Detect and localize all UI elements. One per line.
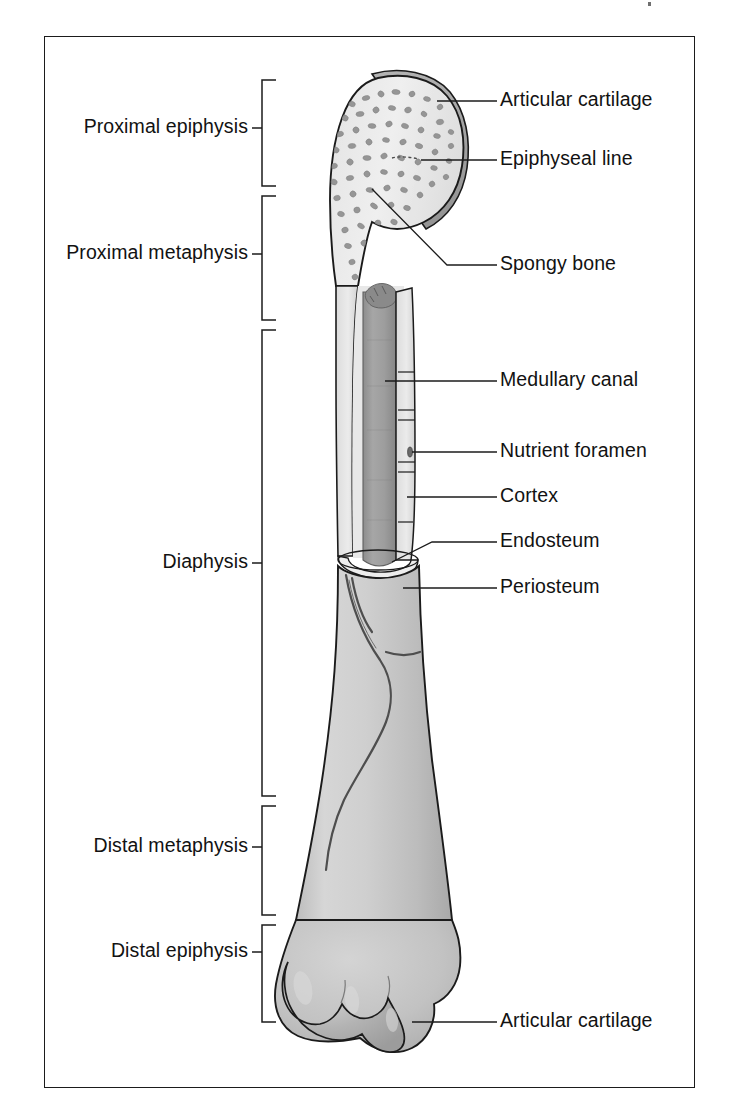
leader-label-spongy-bone: Spongy bone (500, 252, 616, 275)
bracket-label-diaphysis: Diaphysis (163, 550, 248, 573)
bracket-proximal-metaphysis (262, 196, 276, 320)
bracket-label-distal-metaphysis: Distal metaphysis (93, 834, 248, 857)
leader-label-articular-cartilage-proximal: Articular cartilage (500, 88, 653, 111)
bracket-label-proximal-epiphysis: Proximal epiphysis (84, 115, 248, 138)
bracket-group (252, 80, 276, 1022)
figure-page: Proximal epiphysisProximal metaphysisDia… (0, 0, 734, 1114)
leader-label-medullary-canal: Medullary canal (500, 368, 638, 391)
leader-label-nutrient-foramen: Nutrient foramen (500, 439, 647, 462)
bracket-distal-epiphysis (262, 925, 276, 1022)
cortex-right-wall (396, 288, 415, 560)
marrow-transition (365, 283, 396, 308)
medullary-canal (363, 292, 396, 566)
proximal-epiphysis-body (330, 76, 463, 286)
bracket-diaphysis (262, 330, 276, 796)
leader-label-endosteum: Endosteum (500, 529, 600, 552)
nutrient-foramen-opening (408, 447, 413, 457)
bracket-label-proximal-metaphysis: Proximal metaphysis (66, 241, 248, 264)
leader-label-epiphyseal-line: Epiphyseal line (500, 147, 633, 170)
bracket-label-distal-epiphysis: Distal epiphysis (111, 939, 248, 962)
diaphysis-shaft (296, 566, 452, 920)
leader-label-cortex: Cortex (500, 484, 558, 507)
leader-label-periosteum: Periosteum (500, 575, 600, 598)
leader-label-articular-cartilage-distal: Articular cartilage (500, 1009, 653, 1032)
bracket-proximal-epiphysis (262, 80, 276, 186)
bracket-distal-metaphysis (262, 806, 276, 915)
